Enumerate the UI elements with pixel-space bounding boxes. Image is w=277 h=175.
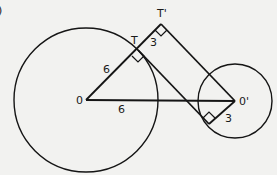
label-ot-length: 6 (103, 63, 110, 76)
label-o-prime: 0' (239, 95, 249, 108)
label-tt-prime-length: 3 (150, 36, 157, 49)
corner-mark: ) (0, 4, 2, 17)
label-t-prime: T' (156, 7, 167, 20)
segment-t-prime-o-prime (161, 24, 235, 101)
label-t: T (130, 34, 138, 47)
label-oo-prime-length: 6 (118, 103, 125, 116)
label-foot-length: 3 (225, 112, 232, 125)
label-o: 0 (76, 94, 83, 107)
right-angle-mark-foot (203, 112, 215, 118)
segment-o-o-prime (86, 100, 235, 101)
tangent-segment (138, 50, 209, 124)
tangent-circles-diagram: ) 0 0' T T' 6 6 3 3 (0, 0, 277, 175)
